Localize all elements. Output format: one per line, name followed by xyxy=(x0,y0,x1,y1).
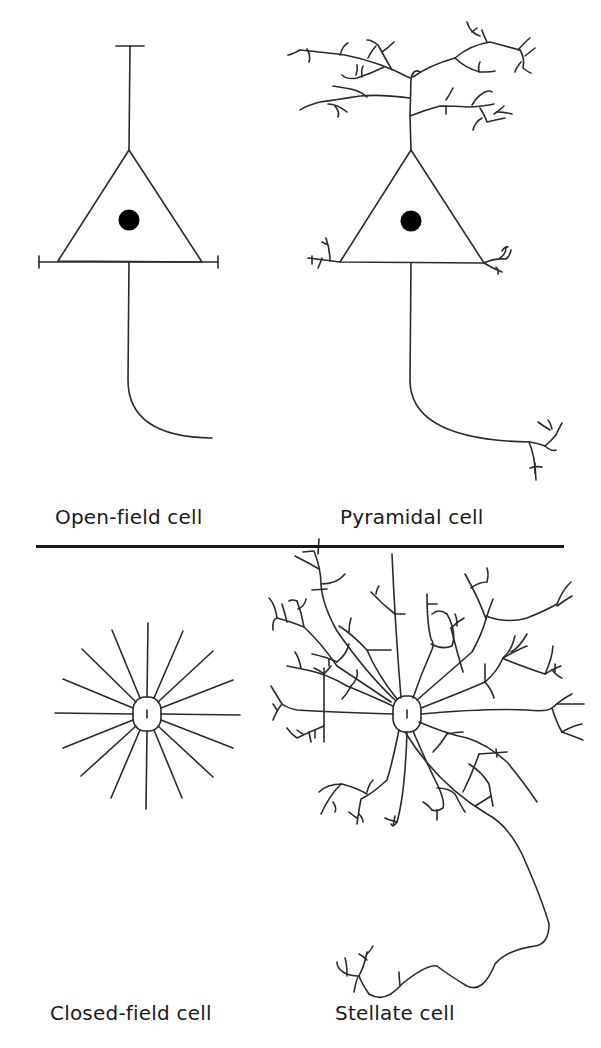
caption-pyramidal-cell: Pyramidal cell xyxy=(340,505,484,529)
axon xyxy=(410,263,545,446)
pyramidal-cell-drawing xyxy=(288,22,562,480)
axon xyxy=(128,262,212,438)
apical-branch xyxy=(300,50,410,78)
nucleus xyxy=(119,210,140,231)
soma-triangle xyxy=(340,150,484,263)
soma-triangle xyxy=(58,150,202,262)
caption-stellate-cell: Stellate cell xyxy=(335,1001,455,1025)
closed-field-cell-drawing xyxy=(55,623,240,809)
caption-closed-field-cell: Closed-field cell xyxy=(50,1001,212,1025)
stellate-cell-drawing xyxy=(269,539,584,997)
apical-trunk xyxy=(410,71,420,150)
open-field-cell-drawing xyxy=(39,46,218,438)
panel-divider xyxy=(36,545,564,548)
caption-open-field-cell: Open-field cell xyxy=(55,505,203,529)
apical-dendrite xyxy=(129,46,130,150)
nucleus xyxy=(401,211,422,232)
